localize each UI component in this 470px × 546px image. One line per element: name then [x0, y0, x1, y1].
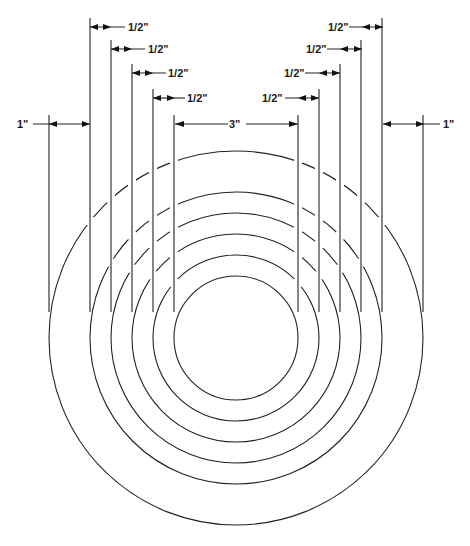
- dim-label: 3": [229, 118, 240, 130]
- dim-label: 1/2": [168, 67, 189, 79]
- ring-6-outer: [49, 151, 423, 525]
- dim-label: 1": [17, 118, 28, 130]
- dim-right-half-2: 1/2": [306, 43, 362, 55]
- dim-right-outer-1in: 1": [383, 118, 454, 130]
- dim-left-half-2: 1/2": [111, 43, 169, 55]
- dim-left-half-4: 1/2": [153, 92, 208, 104]
- dim-left-half-1: 1/2": [90, 21, 149, 33]
- dimension-annotations: 1/2" 1/2" 1/2" 1/2": [17, 21, 454, 130]
- dim-right-half-4: 1/2": [262, 92, 319, 104]
- dim-label: 1/2": [187, 92, 208, 104]
- dim-label: 1/2": [328, 21, 349, 33]
- dim-label: 1/2": [284, 67, 305, 79]
- ring-4: [111, 213, 361, 463]
- dim-label: 1/2": [306, 43, 327, 55]
- dim-label: 1/2": [148, 43, 169, 55]
- dim-left-half-3: 1/2": [132, 67, 189, 79]
- dim-right-half-3: 1/2": [284, 67, 340, 79]
- ring-3: [132, 234, 340, 442]
- dim-label: 1/2": [128, 21, 149, 33]
- extension-lines: [49, 18, 423, 312]
- dim-label: 1/2": [262, 92, 283, 104]
- rings-group: [49, 151, 423, 525]
- ring-1-inner: [174, 276, 298, 400]
- dim-right-half-1: 1/2": [328, 21, 383, 33]
- dim-label: 1": [443, 118, 454, 130]
- dim-center-3in: 3": [175, 118, 298, 130]
- concentric-rings-diagram: 1/2" 1/2" 1/2" 1/2": [0, 0, 470, 546]
- dim-left-outer-1in: 1": [17, 118, 90, 130]
